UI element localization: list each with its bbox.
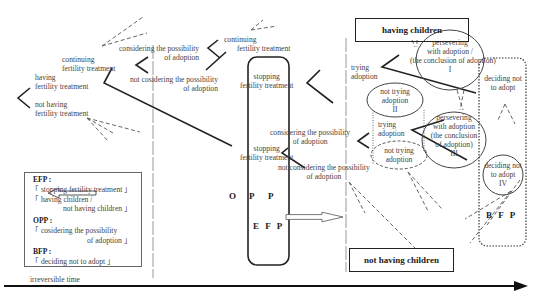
- ellipse-IV-label: deciding notto adoptIV: [483, 161, 523, 188]
- legend-efp-title: EFP :: [33, 175, 51, 184]
- efp-marker: E F P: [253, 221, 284, 231]
- not-having-children-box: not having children: [349, 248, 454, 272]
- legend-opp-line2: of adoption 」: [87, 236, 132, 245]
- legend-efp-line2: 「 having children /: [31, 195, 92, 204]
- opp-marker-p1: P: [249, 191, 260, 201]
- continuing-fertility-treatment-label: continuingfertility treatment: [62, 55, 115, 73]
- trying-adoption-label: tryingadoption: [351, 63, 378, 81]
- legend-efp-line1: 「 stopping fertility treatment 」: [31, 185, 132, 194]
- having-children-box: having children: [355, 18, 469, 42]
- legend-opp-line1: 「 cosidering the possibility: [31, 226, 117, 235]
- legend-bfp-line1: 「 deciding not to adopt 」: [31, 257, 115, 266]
- continuing-fertility-treatment-label-2: continuingfertility treatment: [222, 35, 290, 53]
- ellipse-I-label: perseveringwith adoption /(the conclusio…: [410, 38, 490, 74]
- time-axis-label: irreversible time: [30, 275, 80, 284]
- stopping-fertility-treatment-label: stoppingfertility treatment: [240, 72, 293, 90]
- opp-marker-p2: P: [268, 191, 279, 201]
- ellipse-III-label: perseveringwith adoption(the conclusiono…: [424, 113, 484, 158]
- not-considering-adoption-label: not cosidering the possibilityof adoptio…: [130, 75, 218, 93]
- not-considering-adoption-label-2: not considering the possibilityof adopti…: [278, 163, 370, 181]
- legend-efp-line3: not having children 」: [63, 204, 132, 213]
- having-fertility-treatment-label: havingfertility treatment: [35, 73, 88, 91]
- not-trying-adoption-II-label: not tryingadoptionII: [370, 87, 420, 114]
- trying-adoption-label-2: tryingadoption: [378, 120, 405, 138]
- considering-adoption-label-2: considering the possibilityof adoption: [270, 128, 350, 146]
- opp-marker-o: O: [229, 191, 241, 201]
- not-having-fertility-treatment-label: not havingfertility treatment: [35, 100, 88, 118]
- stopping-fertility-treatment-label-2: stoppingfertility treatment: [240, 144, 293, 162]
- bfp-marker: B F P: [486, 210, 517, 220]
- legend-opp-title: OPP :: [33, 216, 52, 225]
- not-trying-adoption-label: not tryingadoption: [374, 146, 424, 164]
- legend-box: EFP : 「 stopping fertility treatment 」 「…: [24, 172, 142, 267]
- considering-adoption-label: considering the possibilityof adoption: [119, 44, 199, 62]
- deciding-not-to-adopt-label: deciding notto adopt: [481, 74, 525, 92]
- legend-bfp-title: BFP :: [33, 247, 51, 256]
